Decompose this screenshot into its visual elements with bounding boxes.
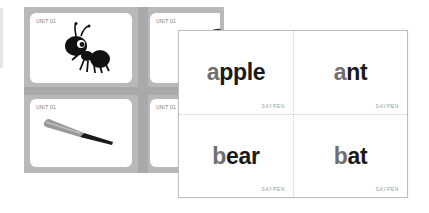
word-card-apple[interactable]: apple SAYPEN [179, 31, 293, 114]
baseball-bat-icon [40, 117, 120, 147]
brand-logo: SAYPEN [261, 103, 285, 109]
word-rest: ear [226, 143, 260, 169]
brand-logo: SAYPEN [375, 186, 399, 192]
word-text: bear [179, 143, 293, 170]
word-text: apple [179, 59, 293, 86]
picture-card-bat[interactable]: UNIT 01 [30, 99, 132, 167]
word-card-sheet: apple SAYPEN ant SAYPEN bear SAYPEN bat … [178, 30, 408, 198]
word-card-ant[interactable]: ant SAYPEN [293, 31, 407, 114]
unit-label: UNIT 01 [156, 18, 176, 24]
edge-strip [0, 8, 3, 68]
unit-label: UNIT 01 [36, 104, 56, 110]
word-rest: at [347, 143, 367, 169]
ant-icon [54, 22, 114, 78]
word-first-letter: b [212, 143, 226, 169]
brand-logo: SAYPEN [261, 186, 285, 192]
word-text: bat [294, 143, 407, 170]
word-card-bear[interactable]: bear SAYPEN [179, 114, 293, 197]
word-first-letter: a [334, 59, 347, 85]
word-card-bat[interactable]: bat SAYPEN [293, 114, 407, 197]
picture-card-ant[interactable]: UNIT 01 [30, 13, 132, 83]
unit-label: UNIT 01 [156, 104, 176, 110]
word-first-letter: b [334, 143, 348, 169]
word-rest: pple [219, 59, 265, 85]
brand-logo: SAYPEN [375, 103, 399, 109]
word-first-letter: a [207, 59, 220, 85]
unit-label: UNIT 01 [36, 18, 56, 24]
word-rest: nt [346, 59, 367, 85]
word-text: ant [294, 59, 407, 86]
